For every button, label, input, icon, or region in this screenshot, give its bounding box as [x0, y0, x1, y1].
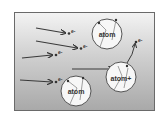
ejected-electron: e- — [127, 37, 143, 63]
electron-arrow: e- — [20, 76, 63, 83]
atom-label: atom — [99, 31, 116, 38]
ion-label: atom+ — [111, 75, 132, 82]
electron-label: e- — [83, 43, 88, 49]
atom-label: atom — [68, 88, 85, 95]
electron-arrow: e- — [36, 28, 76, 35]
atom: atom — [92, 19, 122, 49]
electron-label: e- — [138, 37, 143, 43]
atom: atom — [61, 76, 91, 106]
ionization-diagram: e- e- e- e- e- e- atom atom+ — [0, 0, 164, 116]
electron-arrow: e- — [22, 49, 63, 58]
ion: atom+ — [106, 62, 136, 92]
electron-label: e- — [71, 28, 76, 34]
electron-label: e- — [58, 49, 63, 55]
electron-label: e- — [58, 76, 63, 82]
